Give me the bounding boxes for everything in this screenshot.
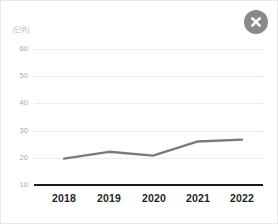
- series-line: [1, 1, 278, 224]
- close-button[interactable]: [244, 10, 268, 34]
- chart-screen: (단위) 60 50 40 30 20 10 2018 2019 2020 20…: [0, 0, 278, 224]
- line-chart: (단위) 60 50 40 30 20 10 2018 2019 2020 20…: [1, 1, 278, 224]
- x-axis-label-2021: 2021: [175, 193, 221, 204]
- x-axis-label-2019: 2019: [86, 193, 132, 204]
- x-axis-label-2020: 2020: [131, 193, 177, 204]
- x-axis-label-2018: 2018: [41, 193, 87, 204]
- x-axis-line: [34, 184, 263, 186]
- close-icon: [244, 10, 268, 34]
- x-axis-label-2022: 2022: [219, 193, 265, 204]
